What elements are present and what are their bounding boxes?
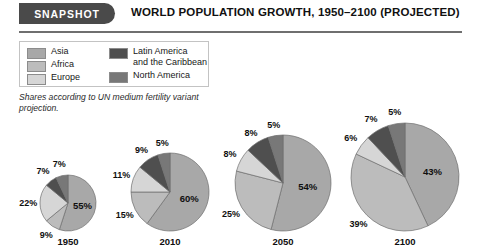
snapshot-badge: SNAPSHOT [19, 3, 115, 24]
pie-label-2050-africa: 25% [222, 209, 240, 219]
pie-label-2010-north: 5% [156, 138, 169, 148]
legend-swatch-africa [27, 61, 46, 72]
pie-label-2010-latin: 9% [135, 145, 148, 155]
legend-column-left: Asia Africa Europe [27, 46, 80, 85]
legend-column-right: Latin America and the Caribbean North Am… [109, 46, 207, 83]
legend-label-north-america: North America [133, 70, 190, 81]
pie-label-1950-africa: 9% [40, 230, 53, 240]
legend: Asia Africa Europe Latin America and the… [19, 41, 209, 87]
pie-label-2050-north: 5% [267, 120, 280, 130]
pie-label-2100-asia: 43% [423, 165, 442, 176]
legend-label-europe: Europe [51, 72, 80, 83]
pie-label-2100-north: 5% [388, 107, 401, 117]
year-label-2050: 2050 [272, 236, 293, 247]
year-label-2100: 2100 [394, 236, 415, 247]
header-divider [19, 31, 462, 33]
pie-label-1950-asia: 55% [73, 200, 92, 211]
year-label-2010: 2010 [159, 236, 180, 247]
pie-label-2050-asia: 54% [298, 181, 317, 192]
snapshot-figure: SNAPSHOT WORLD POPULATION GROWTH, 1950–2… [0, 0, 481, 252]
legend-item-africa: Africa [27, 59, 80, 71]
pie-label-1950-north: 7% [53, 159, 66, 169]
pie-label-2050-latin: 8% [245, 128, 258, 138]
legend-item-europe: Europe [27, 72, 80, 84]
legend-swatch-asia [27, 48, 46, 59]
pie-svg-2050 [233, 133, 333, 233]
pie-label-1950-europe: 22% [19, 198, 37, 208]
legend-label-asia: Asia [51, 46, 69, 57]
pie-label-2100-europe: 6% [344, 133, 357, 143]
pie-label-2010-europe: 11% [113, 170, 131, 180]
pie-label-2050-europe: 8% [223, 149, 236, 159]
chart-note: Shares according to UN medium fertility … [19, 92, 209, 114]
pie-chart-2100 [349, 121, 461, 233]
pie-label-2010-africa: 15% [116, 210, 134, 220]
pie-svg-2100 [349, 121, 461, 233]
legend-swatch-north-america [109, 72, 128, 83]
legend-swatch-latin-america [109, 48, 128, 59]
pie-label-2100-africa: 39% [349, 219, 367, 229]
pie-label-1950-latin: 7% [37, 166, 50, 176]
pie-chart-2050 [233, 133, 333, 233]
legend-item-north-america: North America [109, 70, 207, 82]
legend-label-latin-america: Latin America and the Caribbean [133, 46, 207, 68]
pie-label-2010-asia: 60% [180, 193, 199, 204]
pie-label-2100-latin: 7% [364, 114, 377, 124]
legend-item-latin-america: Latin America and the Caribbean [109, 46, 207, 69]
legend-item-asia: Asia [27, 46, 80, 58]
legend-swatch-europe [27, 74, 46, 85]
year-label-1950: 1950 [57, 236, 78, 247]
legend-label-africa: Africa [51, 59, 74, 70]
page-title: WORLD POPULATION GROWTH, 1950–2100 (PROJ… [131, 6, 460, 18]
